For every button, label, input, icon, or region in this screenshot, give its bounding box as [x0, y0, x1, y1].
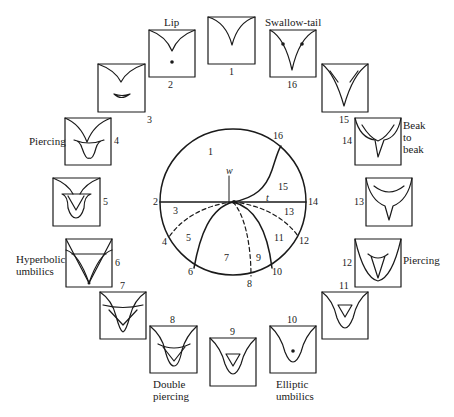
boundary-16: 16: [273, 131, 283, 141]
panel-13: [366, 178, 412, 226]
panel-10-number: 10: [287, 315, 297, 325]
panel-10-name-line1: Elliptic: [276, 378, 308, 390]
region-11: 11: [274, 233, 284, 243]
panel-14-number: 14: [342, 136, 352, 146]
panel-16: [270, 30, 316, 77]
panel-3: [98, 64, 145, 112]
panel-4-number: 4: [114, 136, 119, 146]
boundary-10: 10: [272, 267, 282, 277]
panel-12: [355, 239, 401, 287]
panel-16-name: Swallow-tail: [265, 16, 321, 28]
panel-4: [65, 118, 111, 165]
panel-6-name-line1: Hyperbolic: [16, 253, 65, 265]
region-15: 15: [278, 182, 288, 192]
panel-12-name: Piercing: [403, 254, 440, 266]
boundary-4: 4: [162, 237, 167, 247]
diagram-svg: [0, 0, 454, 417]
panel-6-number: 6: [115, 258, 120, 268]
panel-5-number: 5: [103, 197, 108, 207]
panel-8-name-line1: Double: [153, 378, 185, 390]
panel-3-number: 3: [147, 115, 152, 125]
panel-7-number: 7: [120, 281, 125, 291]
region-7: 7: [224, 253, 229, 263]
panel-9: [210, 338, 256, 386]
panel-14: [355, 118, 401, 165]
panel-8: [150, 326, 197, 373]
panel-10-name-line2: umbilics: [276, 390, 314, 402]
w-label: w: [226, 166, 233, 176]
panel-2: [149, 30, 195, 77]
boundary-12: 12: [299, 236, 309, 246]
panel-5: [53, 178, 100, 226]
region-9: 9: [256, 253, 261, 263]
panel-10: [270, 326, 316, 373]
region-1: 1: [208, 147, 213, 157]
panel-8-name-line2: piercing: [153, 390, 189, 402]
panel-9-number: 9: [230, 327, 235, 337]
region-5: 5: [186, 233, 191, 243]
panel-16-number: 16: [287, 80, 297, 90]
boundary-2: 2: [153, 197, 158, 207]
catastrophe-diagram: w t 1 3 5 7 9 11 13 15 2 4 6 8 10 12 14 …: [0, 0, 454, 417]
region-13: 13: [284, 207, 294, 217]
panel-14-name-line3: beak: [403, 143, 424, 155]
panel-11: [322, 292, 368, 339]
panel-12-number: 12: [342, 258, 352, 268]
panel-1-number: 1: [229, 67, 234, 77]
panel-6-name-line2: umbilics: [16, 265, 54, 277]
panel-14-name-line2: to: [403, 131, 412, 143]
panel-11-number: 11: [339, 281, 349, 291]
panel-7: [100, 292, 146, 339]
panel-8-number: 8: [170, 315, 175, 325]
panel-2-name: Lip: [164, 16, 179, 28]
panel-13-number: 13: [354, 197, 364, 207]
panel-15-number: 15: [339, 115, 349, 125]
t-label: t: [266, 193, 269, 203]
region-3: 3: [173, 206, 178, 216]
panel-6: [66, 239, 112, 287]
panel-15: [322, 64, 368, 112]
panel-4-name: Piercing: [29, 135, 66, 147]
center-disc: [160, 129, 306, 276]
panel-1: [208, 17, 255, 64]
boundary-6: 6: [188, 267, 193, 277]
panel-14-name-line1: Beak: [403, 119, 426, 131]
boundary-14: 14: [308, 197, 318, 207]
boundary-8: 8: [247, 279, 252, 289]
panel-2-number: 2: [168, 80, 173, 90]
